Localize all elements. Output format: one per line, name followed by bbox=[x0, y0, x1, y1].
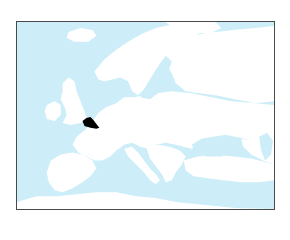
map-canvas bbox=[17, 22, 274, 209]
europe-locator-map bbox=[16, 21, 275, 210]
